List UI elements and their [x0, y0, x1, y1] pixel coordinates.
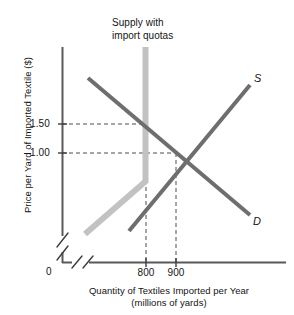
axes: [62, 47, 286, 263]
quota-supply-rising-segment: [85, 181, 146, 234]
x-tick-label-900: 900: [163, 267, 189, 279]
x-axis-title-line2: (millions of yards): [47, 297, 291, 308]
supply-curve-label: S: [254, 72, 261, 85]
x-tick-label-800: 800: [133, 267, 159, 279]
demand-curve: [88, 78, 250, 215]
quota-supply-curve: [85, 47, 146, 234]
y-axis-title: Price per Yard of Imported Textile ($): [22, 20, 38, 250]
quota-annotation-line1: Supply with: [112, 17, 164, 29]
demand-curve-label: D: [253, 215, 261, 228]
x-axis-break-slash-1: [72, 256, 82, 268]
y-tick-label-100: 1.00: [30, 147, 50, 159]
supply-demand-chart: Price per Yard of Imported Textile ($) 1…: [0, 0, 294, 315]
y-tick-label-150: 1.50: [30, 118, 50, 130]
quota-annotation-line2: import quotas: [112, 30, 173, 42]
origin-label: 0: [46, 266, 52, 278]
x-axis-title-line1: Quantity of Textiles Imported per Year: [47, 285, 291, 296]
